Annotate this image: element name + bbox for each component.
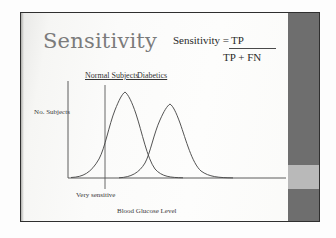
sensitivity-formula: Sensitivity =TP TP + FN	[173, 35, 276, 63]
curve-normal-subjects	[71, 92, 183, 178]
slide-left-edge-gradient	[21, 13, 24, 221]
slide-accent-strip	[288, 13, 319, 221]
legend-label-diabetics: Diabetics	[137, 71, 167, 80]
formula-numerator: TP	[229, 35, 276, 49]
chart-y-axis-label: No. Subjects	[32, 108, 72, 117]
formula-top-row: Sensitivity =TP	[173, 35, 276, 49]
accent-strip-segment-bottom	[288, 189, 319, 222]
threshold-annotation-label: Very sensitive	[76, 191, 115, 199]
curve-diabetics	[119, 104, 233, 178]
legend-label-normal-subjects: Normal Subjects	[85, 71, 139, 80]
formula-denominator: TP + FN	[223, 52, 276, 64]
accent-strip-segment-middle	[288, 165, 319, 189]
chart-x-axis-label: Blood Glucose Level	[117, 207, 177, 215]
slide-title: Sensitivity	[43, 29, 157, 53]
formula-left-hand-side: Sensitivity =	[173, 34, 229, 46]
screenshot-root: Sensitivity Sensitivity =TP TP + FN Norm…	[0, 0, 336, 238]
presentation-slide: Sensitivity Sensitivity =TP TP + FN Norm…	[20, 12, 320, 222]
accent-strip-segment-top	[288, 13, 319, 165]
